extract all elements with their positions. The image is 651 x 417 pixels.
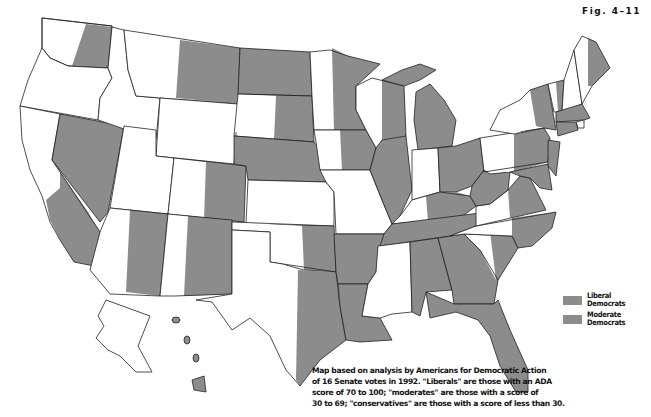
note-line: of 16 Senate votes in 1992. "Liberals" a… bbox=[312, 376, 602, 387]
state-nd bbox=[238, 48, 312, 96]
legend-item-liberal: Liberal Democrats bbox=[563, 292, 647, 308]
state-ia bbox=[314, 130, 376, 170]
state-nj bbox=[548, 140, 560, 176]
legend-label-line: Democrats bbox=[587, 319, 647, 327]
figure-label: Fig. 4–11 bbox=[582, 6, 641, 16]
state-ne bbox=[234, 136, 326, 182]
note-line: Map based on analysis by Americans for D… bbox=[312, 365, 602, 376]
state-ct bbox=[556, 122, 578, 136]
state-ny bbox=[490, 84, 556, 134]
legend-item-moderate: Moderate Democrats bbox=[563, 311, 647, 327]
us-senate-map bbox=[0, 0, 651, 417]
state-ks bbox=[246, 180, 334, 226]
legend-label-line: Democrats bbox=[587, 300, 647, 308]
state-hi bbox=[172, 317, 206, 392]
state-co bbox=[168, 158, 246, 222]
state-in bbox=[412, 148, 440, 200]
map-note: Map based on analysis by Americans for D… bbox=[312, 365, 602, 409]
legend-label-moderate: Moderate Democrats bbox=[587, 311, 647, 327]
note-line: 30 to 69; "conservatives" are those with… bbox=[312, 398, 602, 409]
legend-swatch-liberal bbox=[563, 296, 582, 305]
legend-label-liberal: Liberal Democrats bbox=[587, 292, 647, 308]
legend-swatch-moderate bbox=[563, 315, 582, 324]
state-nm bbox=[160, 214, 232, 296]
note-line: score of 70 to 100; "moderates" are thos… bbox=[312, 387, 602, 398]
state-ak bbox=[96, 300, 152, 372]
state-wy bbox=[156, 98, 238, 164]
state-mi-lower bbox=[414, 84, 456, 150]
legend: Liberal Democrats Moderate Democrats bbox=[563, 292, 647, 330]
state-sd bbox=[234, 94, 314, 142]
state-mt bbox=[124, 30, 240, 104]
state-az bbox=[90, 208, 168, 296]
